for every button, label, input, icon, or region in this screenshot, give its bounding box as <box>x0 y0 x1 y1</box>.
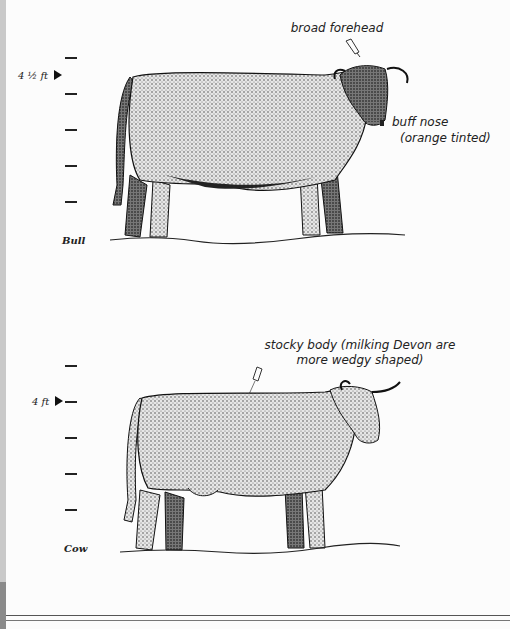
scale-tick <box>65 365 77 367</box>
height-marker-label: 4 ½ ft <box>18 70 48 81</box>
height-arrow-icon <box>54 70 62 80</box>
scale-tick <box>65 129 77 131</box>
annotation-stocky-body: stocky body (milking Devon are more wedg… <box>245 338 475 368</box>
scale-tick <box>65 93 77 95</box>
scale-tick <box>65 57 77 59</box>
annotation-buff-nose: buff nose <box>392 115 448 130</box>
pointer-nose-icon <box>367 120 387 126</box>
height-arrow-icon <box>55 396 63 406</box>
scale-tick <box>65 165 77 167</box>
bull-illustration <box>95 55 425 250</box>
cow-label: Cow <box>64 543 87 554</box>
scale-tick <box>65 473 77 475</box>
page-edge-strip <box>0 0 6 629</box>
page-rule-top <box>6 615 510 616</box>
scale-tick <box>65 437 77 439</box>
annotation-orange-tinted: (orange tinted) <box>400 131 491 146</box>
annotation-broad-forehead: broad forehead <box>282 21 392 36</box>
page-rule-bottom <box>6 620 510 621</box>
scale-tick <box>65 509 77 511</box>
page-edge-shadow <box>0 582 6 629</box>
scale-tick <box>65 201 77 203</box>
bull-label: Bull <box>62 235 85 246</box>
cow-illustration <box>110 380 410 560</box>
height-marker-label: 4 ft <box>32 396 49 407</box>
scale-tick <box>65 401 77 403</box>
